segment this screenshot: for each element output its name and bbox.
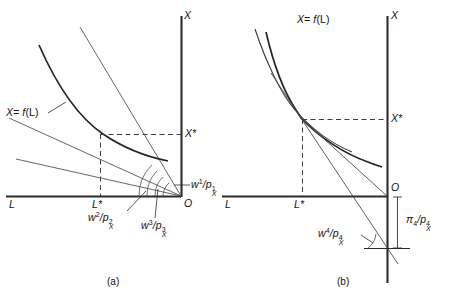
- panel-a-curve-label: X= f(L): [6, 107, 39, 118]
- panel-b-l-axis-label: L: [225, 199, 231, 210]
- panel-b-leader-w4: [361, 235, 373, 243]
- panel-b-origin-label: O: [391, 182, 399, 193]
- panel-a-wage-ratio-2-label: w2/pX2: [88, 212, 109, 223]
- panel-a-leader-curve-label: [48, 102, 66, 113]
- panel-a-curve-label-arg: (L): [25, 106, 38, 118]
- panel-a-wage-ratio-3-label: w3/pX3: [141, 220, 162, 231]
- panel-b-caption: (b): [337, 276, 349, 287]
- panel-a-x-star-label: X*: [185, 128, 196, 139]
- panel-a-wage-ratio-1-label: w1/pX1: [191, 179, 212, 190]
- panel-a-origin-label: O: [184, 198, 192, 209]
- panel-b-curve-label: X= f(L): [297, 14, 330, 25]
- panel-b-angle-arc: [368, 234, 376, 248]
- panel-b-profit-bracket: [393, 197, 402, 248]
- panel-a-leader-w2: [127, 191, 146, 211]
- panel-a-caption: (a): [107, 276, 119, 287]
- panel-b-graphics: [222, 16, 410, 283]
- panel-b-curve-label-arg: (L): [316, 13, 329, 25]
- panel-b-ratio-4-sup: 4: [339, 234, 343, 241]
- panel-b-curve-label-eq: = f: [304, 13, 316, 25]
- panel-b-profit-ratio-label: π4/pX4: [406, 214, 426, 225]
- panel-b-production-curve-lower: [302, 119, 382, 167]
- panel-a-curve-label-eq: = f: [13, 106, 25, 118]
- panel-b-production-curve: [266, 32, 302, 119]
- figure-graphics: [0, 0, 459, 297]
- panel-a-isoprofit-line-2: [9, 118, 181, 196]
- panel-b-wage-ratio-4-label: w4/pX4: [318, 228, 339, 239]
- panel-a-x-axis-label: X: [184, 10, 191, 21]
- panel-a-production-curve: [39, 45, 168, 161]
- panel-b-tangent-to-origin: [302, 119, 387, 196]
- figure-container: X L X* L* O X= f(L) w1/pX1 w2/pX2 w3/pX3…: [0, 0, 459, 297]
- panel-a-isoprofit-line-1: [80, 27, 181, 196]
- panel-a-l-axis-label: L: [9, 199, 15, 210]
- panel-a-l-star-label: L*: [92, 199, 102, 210]
- panel-a-ratio-2-sup: 2: [109, 218, 113, 225]
- panel-a-isoprofit-line-3: [16, 159, 181, 196]
- panel-b-x-axis-label: X: [391, 10, 398, 21]
- panel-b-profit-p-sup: 4: [426, 220, 430, 227]
- panel-a-angle-arc-3: [155, 177, 163, 196]
- panel-b-x-star-label: X*: [391, 113, 402, 124]
- panel-a-ratio-1-sup: 1: [212, 185, 216, 192]
- panel-a-ratio-3-sup: 3: [162, 226, 166, 233]
- panel-b-l-star-label: L*: [294, 199, 304, 210]
- panel-a-leader-w3: [155, 189, 158, 218]
